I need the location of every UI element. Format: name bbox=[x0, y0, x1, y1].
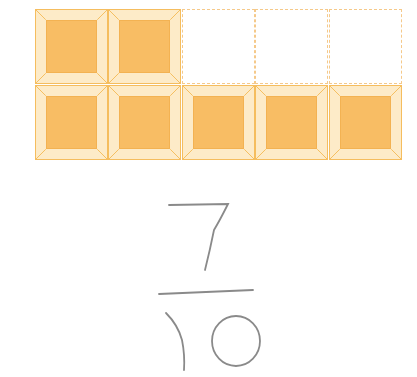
fraction-drawing: 7 bbox=[140, 190, 280, 377]
empty-square bbox=[182, 9, 255, 84]
denominator-zero-glyph bbox=[212, 316, 260, 366]
empty-square bbox=[329, 9, 402, 84]
fraction-grid bbox=[35, 9, 402, 160]
denominator-one-glyph bbox=[166, 313, 184, 370]
shaded-square bbox=[35, 9, 108, 84]
numerator-glyph bbox=[169, 204, 228, 270]
shaded-square bbox=[182, 85, 255, 160]
shaded-square bbox=[255, 85, 328, 160]
shaded-square bbox=[108, 85, 181, 160]
shaded-square bbox=[35, 85, 108, 160]
handwritten-fraction: 7 bbox=[140, 190, 280, 377]
empty-square bbox=[255, 9, 328, 84]
shaded-square bbox=[108, 9, 181, 84]
shaded-square bbox=[329, 85, 402, 160]
fraction-bar bbox=[159, 290, 253, 294]
